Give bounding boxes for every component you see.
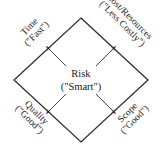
center-label-line1: Risk	[41, 67, 121, 80]
risk-diamond-diagram: Time ("Fast") Cost/Resources ("Less Cost…	[0, 0, 163, 156]
center-label-risk: Risk ("Smart")	[41, 67, 121, 93]
center-label-line2: ("Smart")	[41, 80, 121, 93]
